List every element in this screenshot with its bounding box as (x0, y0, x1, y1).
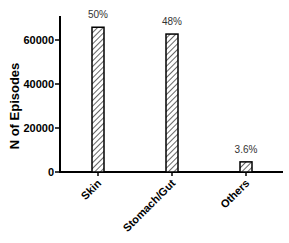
bar-skin (92, 27, 104, 172)
bars: 50%48%3.6% (88, 9, 258, 172)
bar-data-label: 3.6% (235, 144, 258, 155)
bar-stomach-gut (166, 34, 178, 172)
x-tick-label: Skin (78, 177, 103, 202)
bar-data-label: 48% (162, 16, 182, 27)
y-axis-label: N of Episodes (7, 63, 22, 150)
bar-data-label: 50% (88, 9, 108, 20)
bar-others (240, 162, 252, 172)
y-tick-label: 0 (48, 166, 54, 178)
bar-chart: 0200004000060000 SkinStomach/GutOthers 5… (0, 0, 289, 243)
x-tick-label: Others (218, 177, 252, 211)
y-tick-label: 40000 (23, 78, 54, 90)
y-tick-label: 20000 (23, 122, 54, 134)
y-axis: 0200004000060000 (23, 16, 60, 178)
x-tick-label: Stomach/Gut (121, 177, 178, 234)
y-tick-label: 60000 (23, 34, 54, 46)
x-axis: SkinStomach/GutOthers (59, 172, 283, 234)
